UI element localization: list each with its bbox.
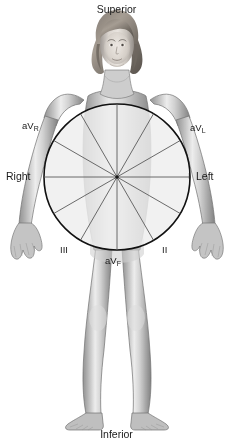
label-lead-avf-subscript: F (117, 260, 121, 267)
label-superior: Superior (0, 4, 233, 15)
label-lead-avr-base: aV (22, 120, 34, 131)
label-right: Right (6, 171, 31, 182)
label-left: Left (196, 171, 214, 182)
hexaxial-wheel (0, 0, 233, 444)
label-lead-avl-base: aV (190, 122, 202, 133)
label-lead-iii: III (60, 245, 68, 255)
diagram-canvas: Superior Inferior Right I Left aVR aVL I… (0, 0, 233, 444)
label-lead-avr: aVR (22, 121, 39, 132)
label-inferior: Inferior (0, 429, 233, 440)
wheel-center-dot (115, 175, 119, 179)
label-lead-avr-subscript: R (34, 125, 39, 132)
label-lead-avl-subscript: L (202, 127, 206, 134)
label-lead-ii: II (162, 245, 167, 255)
label-lead-avf-base: aV (105, 255, 117, 266)
label-lead-i: I (188, 171, 191, 181)
label-lead-avl: aVL (190, 123, 206, 134)
label-lead-avf: aVF (105, 256, 121, 267)
